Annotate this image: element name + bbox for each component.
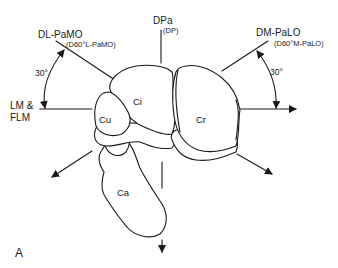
bone-cr-outline [173, 66, 240, 152]
lower-left-exit-arrow [52, 151, 92, 177]
right-angle-label: 30° [270, 68, 283, 77]
bone-ci-label: Ci [133, 97, 142, 107]
carpal-projection-diagram: DL-PaMO (D60°L-PaMO) DPa (DP) DM-PaLO (D… [0, 0, 338, 268]
lm-flm-label-line2: FLM [10, 113, 30, 123]
lower-right-exit-arrow [237, 154, 272, 174]
bone-cu-label: Cu [99, 115, 111, 125]
dm-palo-sublabel: (D60°M-PaLO) [274, 40, 324, 48]
dm-palo-label: DM-PaLO [256, 28, 300, 38]
bone-ca-label: Ca [117, 188, 129, 198]
dpa-sublabel: (DP) [163, 27, 178, 35]
bone-ca-outline [99, 140, 166, 237]
right-angle-arc [257, 51, 276, 108]
panel-label: A [15, 247, 23, 259]
lm-flm-label-line1: LM & [10, 101, 33, 111]
dl-pamo-sublabel: (D60°L-PaMO) [66, 41, 116, 49]
left-angle-label: 30° [35, 69, 48, 78]
dl-pamo-label: DL-PaMO [38, 30, 82, 40]
bone-cr-label: Cr [196, 115, 206, 125]
dpa-label: DPa [153, 16, 172, 26]
left-angle-arc [44, 50, 64, 108]
